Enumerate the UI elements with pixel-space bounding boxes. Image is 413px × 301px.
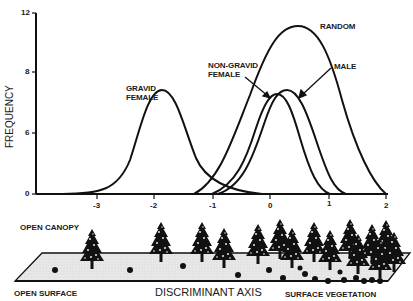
label-surface-vegetation: SURFACE VEGETATION <box>285 290 376 299</box>
label-gravid-line2: FEMALE <box>126 93 158 102</box>
y-tick-12: 12 <box>21 8 30 17</box>
curve-male <box>218 90 346 194</box>
y-tick-6: 6 <box>25 128 29 137</box>
label-male: MALE <box>334 62 356 71</box>
x-tick-neg1: -1 <box>209 201 216 210</box>
label-gravid-female: GRAVID FEMALE <box>126 84 158 102</box>
label-open-canopy: OPEN CANOPY <box>20 223 79 232</box>
x-tick-1: 1 <box>327 199 331 208</box>
label-gravid-line1: GRAVID <box>126 84 158 93</box>
x-tick-neg3: -3 <box>93 201 100 210</box>
discriminant-frequency-chart <box>0 0 413 301</box>
label-non-gravid-female: NON-GRAVID FEMALE <box>208 61 258 79</box>
x-tick-neg2: -2 <box>150 201 157 210</box>
label-open-surface: OPEN SURFACE <box>14 289 77 298</box>
label-random: RANDOM <box>320 22 355 31</box>
male-arrow <box>302 68 331 95</box>
label-nongravid-line1: NON-GRAVID <box>208 61 258 70</box>
y-tick-0: 0 <box>25 189 29 198</box>
x-tick-0: 0 <box>268 201 272 210</box>
y-axis-label: FREQUENCY <box>4 85 15 148</box>
x-tick-2: 2 <box>384 201 388 210</box>
label-nongravid-line2: FEMALE <box>208 70 258 79</box>
label-discriminant-axis: DISCRIMINANT AXIS <box>155 286 262 298</box>
y-tick-8: 8 <box>25 67 29 76</box>
